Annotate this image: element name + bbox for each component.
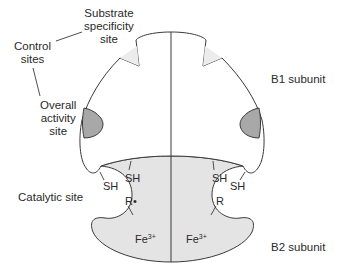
r-radical-label: R• [125,195,137,208]
r-label: R [216,195,224,208]
control-sites-label: Control sites [14,40,51,66]
label-line: site [40,125,76,138]
sh-label-right-outer: SH [230,180,245,193]
sh-label-left-outer: SH [103,180,118,193]
control-pointer-upper [56,32,82,41]
label-line: site [84,33,134,46]
b2-subunit-shape [92,156,254,262]
fe-label-left: Fe3+ [135,230,156,246]
label-line: sites [14,53,51,66]
label-line: Overall [40,99,76,112]
catalytic-site-label: Catalytic site [18,191,83,204]
substrate-specificity-site-label: Substrate specificity site [84,7,134,46]
b1-subunit-shape [80,32,264,173]
overall-activity-site-label: Overall activity site [40,99,76,138]
fe-charge: 3+ [199,233,207,240]
sh-label-left-inner: SH [125,172,140,185]
label-line: specificity [84,20,134,33]
label-line: Substrate [84,7,134,20]
b1-subunit-label: B1 subunit [271,73,325,86]
label-line: Control [14,40,51,53]
control-pointer-lower [33,68,40,96]
fe-charge: 3+ [148,233,156,240]
sh-bond-left-outer [100,172,104,180]
fe-symbol: Fe [186,233,199,245]
b2-subunit-label: B2 subunit [271,241,325,254]
ribonucleotide-reductase-diagram [0,0,341,276]
fe-symbol: Fe [135,233,148,245]
sh-bond-right-outer [240,172,245,180]
sh-label-right-inner: SH [212,172,227,185]
fe-label-right: Fe3+ [186,230,207,246]
label-line: activity [40,112,76,125]
